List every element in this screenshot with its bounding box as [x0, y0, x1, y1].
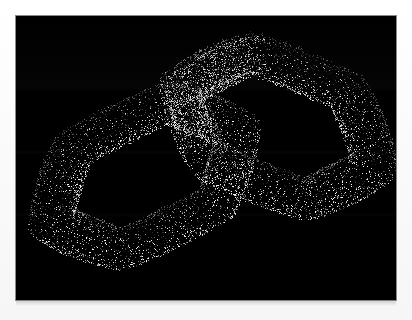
figure-root — [0, 0, 412, 320]
panel-drop-shadow — [16, 300, 396, 306]
plot-panel — [16, 16, 396, 300]
point-cloud-canvas — [16, 16, 396, 300]
